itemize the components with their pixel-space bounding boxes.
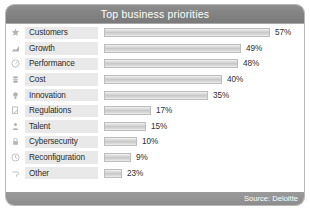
bar-area: 9% [104, 150, 304, 166]
category-label-cell: Cost [25, 73, 98, 86]
document-check-icon [6, 106, 25, 115]
value-label: 35% [213, 91, 229, 100]
page-title: Top business priorities [6, 5, 304, 24]
category-label-cell: Reconfiguration [25, 151, 98, 164]
bar-area: 57% [104, 25, 304, 41]
category-label-cell: Innovation [25, 89, 98, 102]
value-bar [104, 59, 238, 68]
chart-row: Reconfiguration 9% [6, 150, 304, 166]
value-bar [104, 75, 222, 84]
chart-footer: Source: Deloitte [6, 192, 304, 205]
category-label: Other [29, 169, 49, 178]
category-label-cell: Regulations [25, 105, 98, 118]
category-label: Reconfiguration [29, 153, 85, 162]
bar-area: 15% [104, 119, 304, 135]
chart-row: Other 23% [6, 165, 304, 181]
category-label: Talent [29, 122, 50, 131]
value-label: 9% [136, 153, 148, 162]
chart-row: Regulations 17% [6, 103, 304, 119]
value-label: 48% [243, 59, 259, 68]
category-label-cell: Customers [25, 27, 98, 40]
value-bar [104, 44, 241, 53]
speedometer-icon [6, 59, 25, 68]
star-icon [6, 28, 25, 37]
clock-icon [6, 153, 25, 162]
growth-chart-icon [6, 44, 25, 53]
category-label-cell: Cybersecurity [25, 136, 98, 149]
category-label: Innovation [29, 91, 66, 100]
chart-row: Innovation 35% [6, 87, 304, 103]
category-label: Customers [29, 28, 68, 37]
category-label-cell: Growth [25, 42, 98, 55]
bar-area: 17% [104, 103, 304, 119]
value-bar [104, 153, 131, 162]
lock-icon [6, 137, 25, 146]
value-label: 49% [246, 44, 262, 53]
chart-row: Customers 57% [6, 25, 304, 41]
chart-card: Top business priorities Customers 57% Gr… [5, 4, 305, 206]
category-label-cell: Other [25, 167, 98, 180]
bar-area: 23% [104, 165, 304, 181]
category-label: Cybersecurity [29, 137, 78, 146]
bar-area: 48% [104, 56, 304, 72]
category-label: Regulations [29, 106, 71, 115]
chart-row: Talent 15% [6, 119, 304, 135]
value-label: 15% [151, 122, 167, 131]
chart-row: Cybersecurity 10% [6, 134, 304, 150]
value-label: 23% [127, 169, 143, 178]
value-bar [104, 106, 151, 115]
bar-area: 10% [104, 134, 304, 150]
value-bar [104, 91, 208, 100]
tag-icon [6, 169, 25, 178]
chart-rows: Customers 57% Growth 49% P [6, 25, 304, 181]
category-label: Growth [29, 44, 55, 53]
coins-icon [6, 75, 25, 84]
bar-area: 35% [104, 87, 304, 103]
category-label: Performance [29, 59, 75, 68]
value-bar [104, 137, 137, 146]
chart-row: Growth 49% [6, 41, 304, 57]
value-bar [104, 122, 146, 131]
value-label: 40% [227, 75, 243, 84]
source-attribution: Source: Deloitte [244, 192, 298, 205]
bar-area: 49% [104, 41, 304, 57]
chart-row: Performance 48% [6, 56, 304, 72]
lightbulb-icon [6, 91, 25, 100]
category-label-cell: Performance [25, 58, 98, 71]
person-icon [6, 122, 25, 131]
category-label-cell: Talent [25, 120, 98, 133]
value-label: 10% [142, 137, 158, 146]
chart-row: Cost 40% [6, 72, 304, 88]
bar-area: 40% [104, 72, 304, 88]
value-bar [104, 169, 122, 178]
value-label: 17% [156, 106, 172, 115]
chart-header: Top business priorities [6, 5, 304, 24]
value-label: 57% [275, 28, 291, 37]
value-bar [104, 28, 270, 37]
category-label: Cost [29, 75, 45, 84]
